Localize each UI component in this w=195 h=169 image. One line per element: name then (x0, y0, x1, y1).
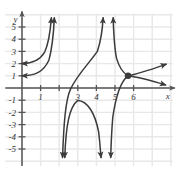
x-tick-label: 4 (94, 92, 99, 102)
y-axis-label: y (13, 14, 18, 24)
x-axis-label: x (165, 91, 170, 101)
y-tick-label: -4 (9, 132, 17, 142)
x-tick-label: 6 (131, 92, 136, 102)
y-tick-label: 3 (11, 47, 17, 57)
y-tick-label: 4 (12, 34, 17, 44)
y-tick-label: -2 (9, 108, 17, 118)
y-tick-label: -3 (9, 120, 17, 130)
y-tick-label: 2 (12, 59, 17, 69)
junction-point (125, 73, 130, 78)
y-tick-label: 1 (12, 71, 17, 81)
data-points (125, 73, 130, 78)
function-graph: 1345654321-1-2-3-4-5 xy (0, 0, 195, 169)
y-tick-label: 5 (12, 22, 17, 32)
y-tick-label: -5 (9, 144, 17, 154)
x-tick-label: 1 (38, 92, 43, 102)
y-tick-label: -1 (9, 95, 17, 105)
